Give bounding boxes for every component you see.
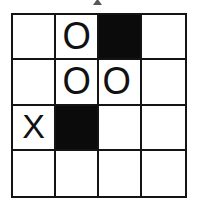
grid-cell-r2c4[interactable]: [142, 60, 185, 105]
cell-mark: O: [102, 62, 130, 100]
grid-cell-r1c3[interactable]: [99, 15, 142, 60]
grid-cell-r4c2[interactable]: [56, 151, 99, 196]
grid-cell-r2c1[interactable]: [13, 60, 56, 105]
cell-mark: O: [62, 62, 90, 100]
grid-cell-r3c1[interactable]: X: [13, 106, 56, 151]
grid-cell-r4c4[interactable]: [142, 151, 185, 196]
grid-cell-r4c1[interactable]: [13, 151, 56, 196]
cell-mark: O: [62, 17, 90, 55]
grid-cell-r3c4[interactable]: [142, 106, 185, 151]
grid-cell-r1c1[interactable]: [13, 15, 56, 60]
puzzle-grid: O O O X: [11, 13, 187, 198]
grid-cell-r2c2[interactable]: O: [56, 60, 99, 105]
grid-cell-r2c3[interactable]: O: [99, 60, 142, 105]
scan-artifact-icon: [93, 0, 102, 5]
grid-cell-r1c4[interactable]: [142, 15, 185, 60]
grid-cell-r4c3[interactable]: [99, 151, 142, 196]
grid-cell-r3c3[interactable]: [99, 106, 142, 151]
cell-mark: X: [22, 109, 45, 143]
grid-puzzle-figure: O O O X: [0, 0, 197, 205]
grid-cell-r3c2[interactable]: [56, 106, 99, 151]
grid-cell-r1c2[interactable]: O: [56, 15, 99, 60]
